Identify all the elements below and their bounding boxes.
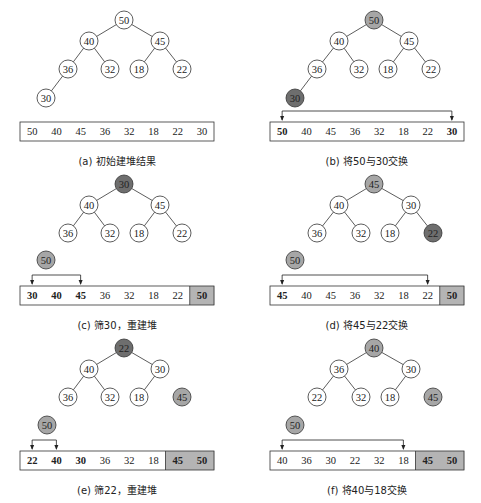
node-value: 18: [134, 64, 145, 75]
array-cell: 45: [75, 126, 86, 137]
array-cell: 40: [301, 290, 312, 301]
array-border: [270, 122, 464, 141]
array-cell: 30: [75, 455, 86, 466]
node-value: 50: [119, 15, 130, 26]
node-value: 36: [312, 64, 323, 75]
node-value: 36: [63, 392, 74, 403]
tree-node: 22: [173, 60, 191, 78]
tree-edge: [417, 212, 428, 226]
array-cell: 18: [148, 126, 159, 137]
swap-bracket: [282, 275, 428, 284]
arrowhead-left: [280, 116, 284, 121]
panel-caption: (b) 将50与30交换: [326, 155, 409, 167]
node-value: 18: [385, 228, 396, 239]
tree-node: 22: [308, 388, 326, 406]
tree-node: 18: [130, 224, 148, 242]
node-value: 32: [105, 228, 116, 239]
swap-bracket: [282, 111, 452, 120]
array-cell: 18: [148, 290, 159, 301]
tree-edge: [300, 76, 311, 91]
node-value: 40: [334, 36, 345, 47]
tree-edge: [97, 25, 117, 37]
array-cell: 18: [398, 126, 409, 137]
panel-caption: (d) 将45与22交换: [326, 319, 409, 331]
node-value: 40: [334, 200, 345, 211]
node-value: 32: [105, 64, 116, 75]
panel-d: 45403036321822504540453632182250(d) 将45与…: [270, 175, 464, 331]
array-cell: 36: [350, 290, 361, 301]
panel-caption: (c) 筛30，重建堆: [77, 319, 156, 331]
node-value: 22: [119, 343, 130, 354]
node-value: 45: [155, 200, 166, 211]
tree-node: 32: [352, 388, 370, 406]
tree-node: 40: [330, 196, 348, 214]
array-cell: 45: [325, 290, 336, 301]
array-cell: 18: [398, 290, 409, 301]
arrowhead-left: [280, 280, 284, 285]
array-cell: 36: [350, 126, 361, 137]
tree-node: 36: [59, 224, 77, 242]
tree-node: 30: [151, 360, 169, 378]
removed-node: 45: [173, 388, 191, 406]
array-cell: 32: [374, 455, 385, 466]
array-cell: 45: [75, 290, 86, 301]
node-value: 32: [354, 64, 365, 75]
tree-node: 22: [173, 224, 191, 242]
tree-node: 30: [286, 89, 304, 107]
node-value: 36: [312, 228, 323, 239]
tree-edge: [345, 212, 356, 226]
tree-node: 50: [115, 11, 133, 29]
node-value: 36: [334, 364, 345, 375]
array-strip: 4540453632182250: [270, 286, 464, 305]
arrowhead-right: [450, 116, 454, 121]
tree-edge: [166, 212, 177, 226]
tree-edge: [393, 48, 403, 62]
array-cell: 45: [422, 455, 433, 466]
node-value: 18: [134, 228, 145, 239]
tree-node: 40: [80, 32, 98, 50]
tree-node: 30: [402, 360, 420, 378]
tree-edge: [382, 25, 402, 37]
tree-node: 32: [350, 60, 368, 78]
array-cell: 40: [51, 290, 62, 301]
tree-edge: [323, 376, 334, 390]
tree-node: 18: [379, 60, 397, 78]
array-cell: 50: [277, 126, 288, 137]
array-cell: 40: [51, 126, 62, 137]
node-value: 36: [63, 228, 74, 239]
array-border: [20, 286, 214, 305]
swap-arrow: [280, 275, 430, 285]
node-value: 22: [177, 64, 188, 75]
panel-f: 40363022321845504036302232184550(f) 将40与…: [270, 339, 464, 496]
array-cell: 22: [172, 290, 183, 301]
tree-edge: [94, 212, 104, 226]
swap-bracket: [282, 440, 403, 449]
node-value: 30: [155, 364, 166, 375]
swap-arrow: [280, 440, 405, 450]
tree-edge: [132, 353, 152, 365]
array-cell: 30: [325, 455, 336, 466]
tree-edge: [347, 189, 367, 201]
panel-e: 22403036321845502240303632184550(e) 筛22，…: [20, 339, 214, 496]
tree-node: 45: [151, 196, 169, 214]
tree-edge: [347, 353, 367, 365]
array-cell: 32: [124, 290, 135, 301]
removed-node: 45: [424, 388, 442, 406]
array-cell: 45: [172, 455, 183, 466]
tree-node: 45: [365, 175, 383, 193]
tree-edge: [97, 189, 117, 201]
array-cell: 30: [197, 126, 208, 137]
array-cell: 50: [197, 455, 208, 466]
array-cell: 36: [100, 126, 111, 137]
panel-a: 50404536321822305040453632182230(a) 初始建堆…: [20, 11, 214, 167]
array-cell: 22: [172, 126, 183, 137]
array-cell: 30: [447, 126, 458, 137]
node-value: 40: [84, 200, 95, 211]
panel-caption: (e) 筛22，重建堆: [77, 484, 157, 496]
tree-node: 30: [37, 89, 55, 107]
node-value: 22: [312, 392, 323, 403]
node-value: 50: [42, 420, 53, 431]
array-cell: 50: [27, 126, 38, 137]
tree-edge: [132, 189, 152, 201]
removed-node: 50: [286, 416, 304, 434]
